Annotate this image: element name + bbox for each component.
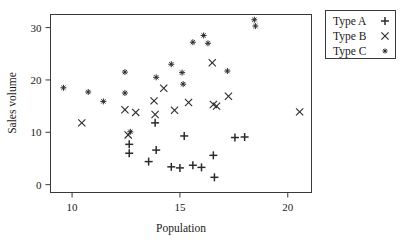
data-point-markers: [60, 17, 303, 182]
data-point-cross: [225, 93, 232, 100]
legend-label-type-a: Type A: [333, 15, 367, 28]
legend-label-type-c: Type C: [333, 45, 367, 58]
data-point-cross: [296, 108, 303, 115]
data-point-plus: [167, 163, 175, 171]
data-point-cross: [185, 99, 192, 106]
scatter-plot-figure: 0102030 101520 Sales volume Population T…: [0, 0, 402, 243]
data-point-star: [100, 98, 106, 104]
data-point-star: [224, 68, 230, 74]
data-point-cross: [171, 107, 178, 114]
data-point-star: [205, 40, 211, 46]
data-point-star: [168, 61, 174, 67]
plot-frame: [51, 15, 312, 193]
data-point-star: [201, 32, 207, 38]
data-point-star: [85, 89, 91, 95]
legend-label-type-b: Type B: [333, 30, 367, 43]
data-point-star: [382, 48, 387, 53]
x-tick-label: 20: [282, 201, 294, 213]
data-point-cross: [213, 103, 220, 110]
data-point-plus: [197, 163, 205, 171]
y-tick-label: 20: [31, 74, 43, 86]
data-point-star: [251, 17, 257, 23]
data-point-plus: [231, 134, 239, 142]
x-tick-label: 10: [67, 201, 79, 213]
data-point-star: [180, 81, 186, 87]
x-axis-ticks: 101520: [67, 193, 294, 213]
data-point-plus: [176, 164, 184, 172]
x-axis-title: Population: [156, 222, 206, 235]
y-axis-title: Sales volume: [6, 72, 18, 134]
y-axis-ticks: 0102030: [31, 22, 51, 191]
series-type-a: [125, 119, 248, 181]
y-tick-label: 0: [36, 179, 42, 191]
data-point-star: [122, 69, 128, 75]
data-point-star: [252, 23, 258, 29]
data-point-cross: [121, 106, 128, 113]
data-point-plus: [241, 133, 249, 141]
data-point-cross: [132, 109, 139, 116]
data-point-star: [122, 90, 128, 96]
data-point-plus: [180, 132, 188, 140]
data-point-plus: [152, 146, 160, 154]
data-point-plus: [125, 140, 133, 148]
data-point-plus: [151, 119, 159, 127]
data-point-plus: [210, 173, 218, 181]
data-point-cross: [78, 119, 85, 126]
data-point-star: [127, 129, 133, 135]
data-point-plus: [209, 151, 217, 159]
data-point-plus: [145, 158, 153, 166]
y-tick-label: 10: [31, 126, 43, 138]
data-point-star: [60, 85, 66, 91]
data-point-cross: [160, 85, 167, 92]
y-tick-label: 30: [31, 22, 43, 34]
data-point-plus: [125, 149, 133, 157]
chart-canvas: 0102030 101520 Sales volume Population T…: [0, 0, 402, 243]
legend: Type AType BType C: [326, 11, 396, 59]
data-point-star: [190, 39, 196, 45]
data-point-star: [179, 70, 185, 76]
data-point-cross: [209, 59, 216, 66]
data-point-star: [153, 74, 159, 80]
series-type-b: [78, 59, 303, 138]
x-tick-label: 15: [174, 201, 186, 213]
data-point-plus: [189, 161, 197, 169]
data-point-cross: [150, 97, 157, 104]
data-point-cross: [152, 111, 159, 118]
series-type-c: [60, 17, 258, 135]
